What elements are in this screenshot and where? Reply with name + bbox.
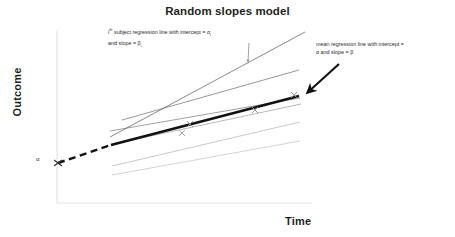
subject-line-2	[122, 70, 299, 120]
subject-line-1	[110, 32, 305, 137]
mean-annotation-pointer-arrow	[307, 64, 339, 93]
mean-regression-line	[111, 96, 299, 145]
subject-lines-group	[110, 32, 305, 175]
subject-line-5	[112, 122, 300, 166]
subject-line-6	[112, 141, 300, 175]
plot-canvas	[0, 0, 455, 237]
axis-group	[57, 30, 312, 203]
subject-annotation-leader-arrow	[248, 43, 249, 62]
mean-line-group	[58, 96, 299, 163]
random-slopes-figure: Random slopes model Outcome Time α ith s…	[0, 0, 455, 237]
point-marker-2	[179, 130, 185, 136]
mean-line-dashed-extension	[58, 145, 111, 163]
